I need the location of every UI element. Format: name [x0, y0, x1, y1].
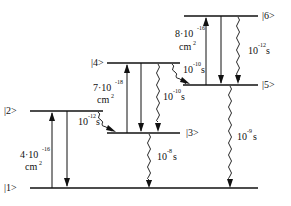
svg-text:-16: -16: [197, 25, 205, 31]
level-6-label: |6>: [262, 10, 275, 21]
lifetime-4-5: 10 -10 s: [183, 61, 205, 75]
svg-text:s: s: [96, 116, 100, 127]
lifetime-3-1: 10 -8 s: [157, 148, 177, 162]
lifetime-6-5: 10 -12 s: [248, 42, 270, 56]
svg-text:2: 2: [193, 40, 196, 46]
svg-text:10: 10: [237, 131, 247, 142]
level-2-label: |2>: [4, 105, 17, 116]
svg-text:cm: cm: [179, 41, 191, 52]
lifetime-4-3: 10 -10 s: [163, 88, 185, 102]
svg-text:s: s: [266, 45, 270, 56]
svg-text:2: 2: [111, 93, 114, 99]
svg-text:-9: -9: [247, 128, 252, 134]
svg-text:-16: -16: [42, 146, 50, 152]
level-4-label: |4>: [91, 57, 104, 68]
svg-text:s: s: [253, 131, 257, 142]
svg-text:-10: -10: [173, 88, 181, 94]
svg-text:-10: -10: [193, 61, 201, 67]
svg-text:10: 10: [248, 45, 258, 56]
level-3-label: |3>: [186, 127, 199, 138]
svg-text:2: 2: [39, 160, 42, 166]
level-5-label: |5>: [262, 79, 275, 90]
cross-section-5-6: 8·10 -16 cm 2: [175, 25, 205, 52]
svg-text:cm: cm: [25, 161, 37, 172]
relaxation-wavy-5-1: [229, 86, 232, 180]
svg-text:-12: -12: [88, 113, 96, 119]
svg-text:s: s: [173, 151, 177, 162]
svg-text:-8: -8: [167, 148, 172, 154]
svg-text:-12: -12: [258, 42, 266, 48]
lifetime-5-1: 10 -9 s: [237, 128, 257, 142]
svg-text:s: s: [201, 64, 205, 75]
svg-text:cm: cm: [97, 94, 109, 105]
relaxation-wavy-6-5: [237, 17, 240, 81]
lifetime-2-3: 10 -12 s: [78, 113, 100, 127]
svg-text:7·10: 7·10: [93, 82, 111, 93]
svg-text:10: 10: [163, 91, 173, 102]
svg-text:-18: -18: [115, 79, 123, 85]
svg-text:s: s: [181, 91, 185, 102]
energy-level-diagram: |1> |2> |3> |4> |5> |6>: [0, 0, 291, 206]
svg-text:10: 10: [78, 116, 88, 127]
level-1-label: |1>: [4, 182, 17, 193]
svg-text:10: 10: [157, 151, 167, 162]
relaxation-wavy-4-3: [157, 64, 160, 122]
relaxation-wavy-3-1: [148, 134, 151, 180]
cross-section-3-4: 7·10 -18 cm 2: [93, 79, 123, 105]
svg-text:4·10: 4·10: [20, 149, 38, 160]
svg-text:10: 10: [183, 64, 193, 75]
cross-section-1-2: 4·10 -16 cm 2: [20, 146, 50, 172]
svg-text:8·10: 8·10: [175, 28, 193, 39]
